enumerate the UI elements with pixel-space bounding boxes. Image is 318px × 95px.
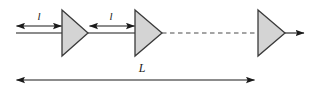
total-length-label: L — [138, 61, 146, 75]
repeater-spacing-diagram: l l L — [0, 0, 318, 95]
amplifier-triangle-3 — [258, 10, 285, 56]
amplifier-triangle-2 — [135, 10, 162, 56]
segment-label-2: l — [109, 10, 112, 22]
segment-label-1: l — [37, 10, 40, 22]
diagram-canvas: l l L — [0, 0, 318, 95]
amplifier-triangle-1 — [62, 10, 88, 56]
